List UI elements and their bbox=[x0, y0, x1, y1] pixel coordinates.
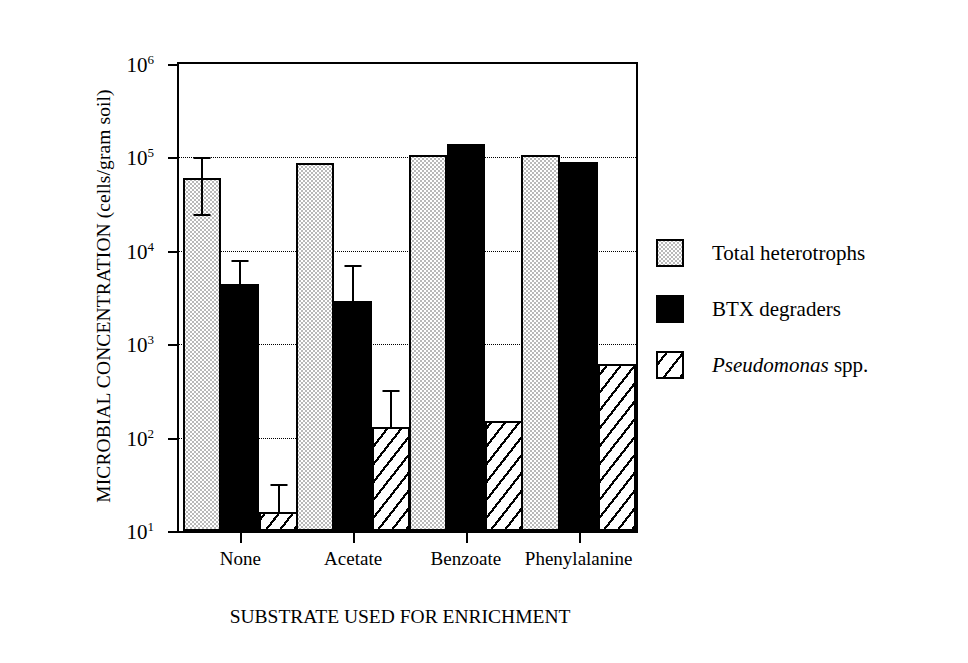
bar-total-acetate bbox=[296, 163, 334, 531]
legend-label-total: Total heterotrophs bbox=[712, 241, 865, 266]
y-axis-tick: 101 bbox=[168, 531, 179, 533]
x-axis-tick bbox=[353, 531, 355, 543]
bar-btx-benzoate bbox=[447, 144, 485, 531]
error-cap-upper bbox=[194, 157, 211, 159]
error-bar-btx-acetate bbox=[352, 265, 354, 301]
legend-swatch-pseudo-icon bbox=[656, 351, 684, 379]
y-axis-tick-label: 106 bbox=[126, 55, 154, 76]
error-cap-upper bbox=[345, 265, 362, 267]
error-cap-upper bbox=[232, 260, 249, 262]
x-axis-tick bbox=[240, 531, 242, 543]
error-bar-btx-none bbox=[239, 260, 241, 284]
legend-item-total: Total heterotrophs bbox=[656, 225, 868, 281]
bar-total-none bbox=[183, 178, 221, 531]
error-bar-pseudo-acetate bbox=[390, 390, 392, 427]
legend-swatch-btx-icon bbox=[656, 295, 684, 323]
bar-pseudo-none bbox=[259, 512, 297, 531]
x-axis-tick-label-acetate: Acetate bbox=[324, 548, 382, 570]
plot-inner: 106105104103102101NoneAcetateBenzoatePhe… bbox=[179, 64, 636, 531]
y-axis-tick-label: 103 bbox=[126, 335, 154, 356]
x-axis-tick-label-phenylalanine: Phenylalanine bbox=[525, 548, 633, 570]
figure-root: MICROBIAL CONCENTRATION (cells/gram soil… bbox=[0, 0, 968, 663]
bar-pseudo-phenylalanine bbox=[598, 364, 636, 531]
y-axis-tick: 105 bbox=[168, 157, 179, 159]
legend-label-btx: BTX degraders bbox=[712, 297, 841, 322]
bar-pseudo-benzoate bbox=[485, 421, 523, 531]
y-axis-tick-label: 104 bbox=[126, 242, 154, 263]
bar-total-phenylalanine bbox=[521, 155, 559, 531]
x-axis-tick bbox=[579, 531, 581, 543]
y-axis-tick-label: 102 bbox=[126, 429, 154, 450]
error-cap-upper bbox=[383, 390, 400, 392]
y-axis-tick-label: 105 bbox=[126, 148, 154, 169]
x-axis-tick bbox=[466, 531, 468, 543]
gridline bbox=[179, 157, 636, 158]
x-axis-tick-label-benzoate: Benzoate bbox=[431, 548, 502, 570]
bar-total-benzoate bbox=[409, 155, 447, 531]
error-bar-pseudo-none bbox=[278, 484, 280, 512]
error-cap-lower bbox=[194, 214, 211, 216]
y-axis-tick: 106 bbox=[168, 64, 179, 66]
bar-btx-phenylalanine bbox=[560, 162, 598, 531]
legend-item-pseudo: Pseudomonas spp. bbox=[656, 337, 868, 393]
legend-label-pseudo: Pseudomonas spp. bbox=[712, 353, 868, 378]
legend-swatch-total-icon bbox=[656, 239, 684, 267]
y-axis-tick-label: 101 bbox=[126, 522, 154, 543]
error-cap-upper bbox=[270, 484, 287, 486]
y-axis-tick: 103 bbox=[168, 344, 179, 346]
plot-area: 106105104103102101NoneAcetateBenzoatePhe… bbox=[177, 62, 638, 533]
bar-btx-acetate bbox=[334, 301, 372, 531]
y-axis-title: MICROBIAL CONCENTRATION (cells/gram soil… bbox=[93, 16, 115, 576]
x-axis-title: SUBSTRATE USED FOR ENRICHMENT bbox=[150, 606, 650, 628]
y-axis-tick: 104 bbox=[168, 251, 179, 253]
x-axis-tick-label-none: None bbox=[220, 548, 261, 570]
bar-btx-none bbox=[221, 284, 259, 531]
y-axis-tick: 102 bbox=[168, 438, 179, 440]
bar-pseudo-acetate bbox=[372, 427, 410, 531]
legend-item-btx: BTX degraders bbox=[656, 281, 868, 337]
legend: Total heterotrophsBTX degradersPseudomon… bbox=[656, 225, 868, 393]
error-bar-total-none bbox=[201, 157, 203, 213]
